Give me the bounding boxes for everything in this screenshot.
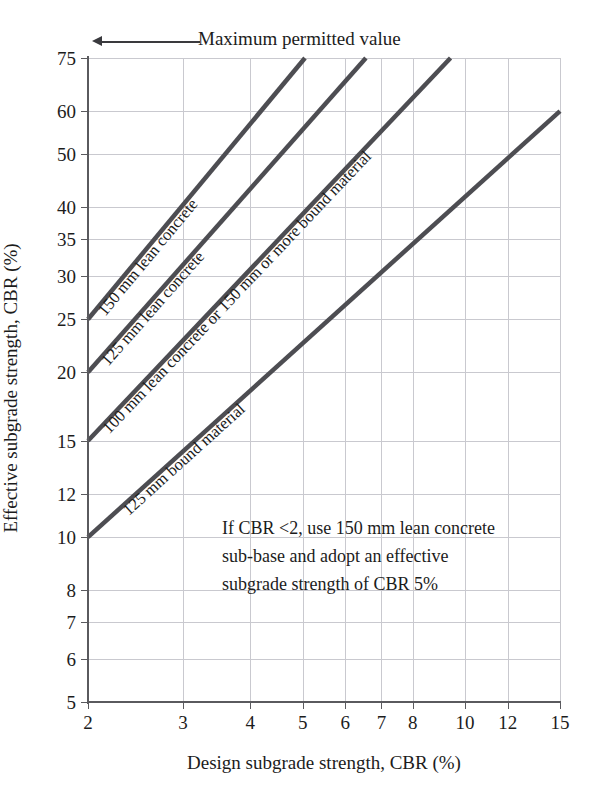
y-tick-label: 6 — [67, 649, 77, 668]
x-axis-spine — [87, 701, 561, 703]
data-line — [88, 111, 560, 537]
x-tick-label: 12 — [498, 713, 517, 732]
x-tick-mark — [183, 702, 184, 709]
x-tick-label: 10 — [456, 713, 475, 732]
y-tick-label: 30 — [57, 266, 76, 285]
y-tick-label: 12 — [57, 484, 76, 503]
y-tick-label: 5 — [67, 693, 77, 712]
x-tick-mark — [381, 702, 382, 709]
x-tick-label: 7 — [377, 713, 387, 732]
x-tick-mark — [250, 702, 251, 709]
cbr-note-block: If CBR <2, use 150 mm lean concrete sub-… — [222, 515, 495, 599]
y-tick-label: 25 — [57, 310, 76, 329]
gridline-vertical — [560, 58, 561, 702]
data-line — [88, 58, 305, 319]
cbr-note-line-2: sub-base and adopt an effective — [222, 543, 495, 571]
x-tick-mark — [465, 702, 466, 709]
plot-area: 56781012152025303540506075 2345678101215… — [88, 58, 560, 702]
cbr-note-line-1: If CBR <2, use 150 mm lean concrete — [222, 515, 495, 543]
y-tick-label: 7 — [67, 612, 77, 631]
annotation-arrow-line — [100, 41, 200, 43]
x-tick-mark — [303, 702, 304, 709]
x-tick-label: 6 — [341, 713, 351, 732]
y-tick-label: 10 — [57, 528, 76, 547]
y-axis-spine — [87, 56, 89, 704]
data-lines — [88, 58, 560, 702]
x-tick-mark — [413, 702, 414, 709]
data-line — [88, 58, 451, 441]
y-tick-label: 40 — [57, 198, 76, 217]
y-tick-label: 15 — [57, 431, 76, 450]
y-tick-label: 75 — [57, 49, 76, 68]
x-tick-mark — [345, 702, 346, 709]
x-axis-title: Design subgrade strength, CBR (%) — [88, 752, 560, 774]
x-tick-mark — [560, 702, 561, 709]
y-axis-title: Effective subgrade strength, CBR (%) — [0, 66, 28, 710]
x-tick-label: 2 — [83, 713, 93, 732]
x-tick-label: 15 — [551, 713, 570, 732]
x-tick-label: 8 — [408, 713, 418, 732]
chart-figure: 56781012152025303540506075 2345678101215… — [0, 0, 598, 802]
x-tick-label: 5 — [298, 713, 308, 732]
maximum-permitted-value-annotation: Maximum permitted value — [92, 28, 512, 54]
x-tick-mark — [508, 702, 509, 709]
y-tick-label: 50 — [57, 145, 76, 164]
x-tick-label: 4 — [246, 713, 256, 732]
y-tick-label: 60 — [57, 102, 76, 121]
cbr-note-line-3: subgrade strength of CBR 5% — [222, 571, 495, 599]
maximum-permitted-value-label: Maximum permitted value — [198, 28, 401, 50]
y-tick-label: 8 — [67, 581, 77, 600]
y-tick-label: 35 — [57, 230, 76, 249]
y-tick-label: 20 — [57, 363, 76, 382]
x-tick-label: 3 — [178, 713, 188, 732]
